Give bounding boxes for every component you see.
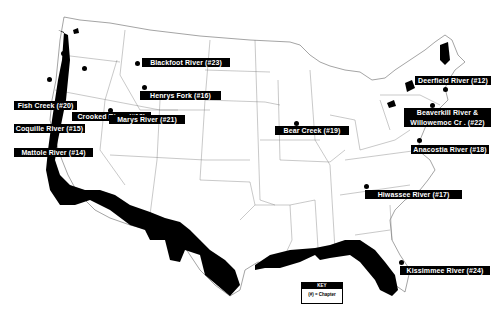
label-beaverkill-river: Beaverkill River & Willowemoc Cr . (#22) xyxy=(404,108,491,127)
label-deerfield-river: Deerfield River (#12) xyxy=(415,76,491,85)
label-anacostia-river: Anacostia River (#18) xyxy=(411,145,489,154)
key-legend: (#) = Chapter xyxy=(302,289,342,301)
label-blackfoot-river: Blackfoot River (#23) xyxy=(142,58,230,67)
site-dot-kissimmee-river xyxy=(399,260,404,265)
label-mattole-river: Mattole River (#14) xyxy=(14,148,93,157)
label-beaverkill-line2: Willowemoc Cr . (#22) xyxy=(404,118,491,128)
label-fish-creek: Fish Creek (#20) xyxy=(14,101,77,110)
map-key: KEY (#) = Chapter xyxy=(301,282,343,304)
us-border xyxy=(50,17,465,296)
site-dot-henrys-fork xyxy=(142,85,147,90)
site-dot-crooked-river xyxy=(82,66,87,71)
site-dot-fish-creek xyxy=(61,51,66,56)
label-kissimmee-river: Kissimmee River (#24) xyxy=(400,266,490,275)
us-rivers-map: Fish Creek (#20) Crooked River (#13) Coq… xyxy=(0,0,503,315)
site-dot-hiwassee-river xyxy=(364,184,369,189)
label-coquille-river: Coquille River (#15) xyxy=(14,124,85,133)
label-henrys-fork: Henrys Fork (#16) xyxy=(140,91,221,100)
site-dot-coquille-river xyxy=(47,77,52,82)
label-bear-creek: Bear Creek (#19) xyxy=(275,126,349,135)
label-hiwassee-river: Hiwassee River (#17) xyxy=(365,190,462,199)
site-dot-anacostia-river xyxy=(417,138,422,143)
site-dot-blackfoot-river xyxy=(135,61,140,66)
label-beaverkill-line1: Beaverkill River & xyxy=(404,108,491,118)
label-marys-river: Marys River (#21) xyxy=(109,115,185,124)
site-dot-deerfield-river xyxy=(443,87,448,92)
